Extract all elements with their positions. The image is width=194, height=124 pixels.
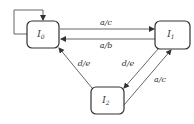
edge-label-i2-i0: d/e <box>78 59 91 68</box>
state-diagram: a/c a/b d/e d/e a/c I0 I1 I2 <box>0 0 194 124</box>
edge-label-i0-i1: a/c <box>100 18 112 27</box>
edge-i1-to-i2 <box>124 49 158 88</box>
state-node-i0: I0 <box>27 21 59 48</box>
state-node-i1: I1 <box>155 21 190 49</box>
edge-label-i1-i2: d/e <box>122 59 135 68</box>
state-subscript-i2: 2 <box>105 99 110 106</box>
edge-i2-to-i0 <box>59 48 92 88</box>
edge-label-i1-i0: a/b <box>100 41 113 50</box>
state-subscript-i1: 1 <box>171 33 175 40</box>
edge-label-i2-i1: a/c <box>154 75 166 84</box>
state-subscript-i0: 0 <box>41 33 45 40</box>
state-node-i2: I2 <box>91 87 124 114</box>
